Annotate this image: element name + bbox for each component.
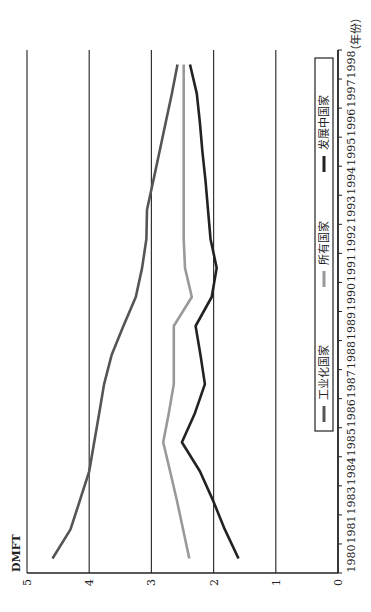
x-tick-label: 1994 — [345, 167, 358, 195]
legend-label: 工业化国家 — [317, 345, 331, 400]
x-tick-label: 1986 — [345, 399, 358, 427]
y-tick-label: 4 — [83, 579, 96, 586]
y-tick-label: 3 — [145, 579, 158, 586]
x-tick-label: 1992 — [345, 225, 358, 253]
legend-label: 发展中国家 — [317, 95, 331, 150]
x-tick-label: 1996 — [345, 109, 358, 137]
x-tick-label: 1981 — [345, 515, 358, 543]
y-tick-label: 5 — [21, 579, 34, 586]
x-tick-label: 1983 — [345, 486, 358, 514]
legend: 工业化国家所有国家发展中国家 — [315, 58, 333, 431]
legend-label: 所有国家 — [317, 221, 331, 265]
x-tick-label: 1991 — [345, 254, 358, 282]
data-lines — [53, 65, 239, 559]
x-tick-label: 1990 — [345, 283, 358, 311]
rotated-chart-stage: 1980198119831984198519861987198819891990… — [0, 0, 371, 612]
x-tick-label: 1984 — [345, 457, 358, 485]
x-tick-label: 1989 — [345, 312, 358, 340]
x-tick-label: 1995 — [345, 138, 358, 166]
x-tick-label: 1988 — [345, 341, 358, 369]
series-line-2 — [182, 65, 239, 559]
y-tick-label: 2 — [208, 579, 221, 586]
series-line-0 — [53, 65, 178, 559]
x-tick-label: 1987 — [345, 370, 358, 398]
series-line-1 — [163, 65, 192, 559]
y-tick-label: 0 — [332, 579, 345, 586]
dmft-line-chart: 1980198119831984198519861987198819891990… — [0, 0, 371, 612]
y-axis-label: DMFT — [10, 533, 23, 572]
x-axis-ticks: 1980198119831984198519861987198819891990… — [338, 50, 358, 573]
x-tick-label: 1997 — [345, 80, 358, 108]
x-tick-label: 1980 — [345, 544, 358, 572]
y-axis-ticks: 012345 — [21, 579, 345, 586]
x-tick-label: 1993 — [345, 196, 358, 224]
x-tick-label: 1985 — [345, 428, 358, 456]
y-tick-label: 1 — [270, 579, 283, 586]
x-axis-label: （年份） — [349, 12, 363, 56]
gridlines — [27, 50, 276, 573]
